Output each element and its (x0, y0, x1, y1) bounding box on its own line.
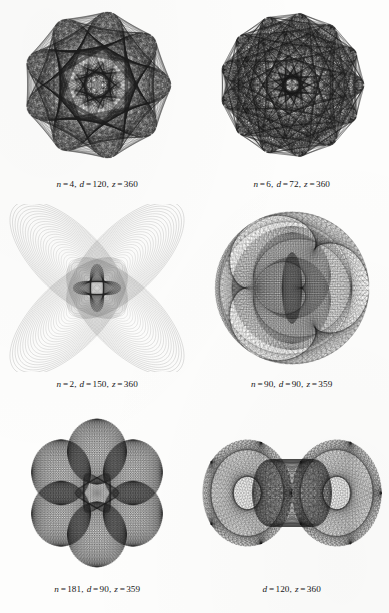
figure-caption-5: n=181,d=90,z=359 (54, 585, 140, 594)
caption-value: 90 (100, 584, 109, 594)
caption-var: n (253, 179, 258, 189)
figure-canvas (6, 409, 188, 577)
figure-caption-4: n=90,d=90,z=359 (251, 380, 332, 389)
figure-canvas (6, 204, 188, 372)
figure-cell-4: n=90,d=90,z=359 (195, 204, 389, 408)
caption-var: d (276, 179, 281, 189)
figure-caption-1: n=4,d=120,z=360 (57, 180, 138, 189)
caption-value: 181 (67, 584, 81, 594)
caption-value: 120 (275, 584, 289, 594)
spirograph-figure-4 (195, 204, 389, 372)
spirograph-figure-2 (195, 0, 389, 170)
caption-value: 360 (316, 179, 330, 189)
spirograph-figure-3 (0, 204, 195, 372)
spirograph-figure-5 (0, 409, 195, 577)
figure-stroke (222, 13, 364, 156)
spirograph-figure-6 (195, 409, 389, 577)
caption-value: 359 (318, 379, 332, 389)
figure-caption-6: d=120,z=360 (263, 585, 321, 594)
figure-canvas (6, 1, 188, 169)
figure-cell-2: n=6,d=72,z=360 (195, 0, 389, 204)
figure-stroke (202, 439, 381, 546)
figure-cell-6: d=120,z=360 (195, 409, 389, 613)
figure-caption-2: n=6,d=72,z=360 (253, 180, 330, 189)
caption-value: 360 (307, 584, 321, 594)
caption-var: d (263, 584, 268, 594)
figure-stroke (27, 12, 171, 158)
caption-var: z (306, 379, 310, 389)
caption-value: 90 (292, 379, 301, 389)
figure-canvas (201, 1, 383, 169)
caption-value: 360 (124, 379, 138, 389)
figure-cell-3: n=2,d=150,z=360 (0, 204, 195, 408)
caption-var: d (80, 179, 85, 189)
caption-value: 72 (289, 179, 298, 189)
figure-caption-3: n=2,d=150,z=360 (57, 380, 138, 389)
figure-cell-5: n=181,d=90,z=359 (0, 409, 195, 613)
figure-cell-1: n=4,d=120,z=360 (0, 0, 195, 204)
caption-value: 359 (126, 584, 140, 594)
figure-grid: n=4,d=120,z=360 n=6,d=72,z=360 n=2,d=150… (0, 0, 389, 613)
spirograph-figure-1 (0, 0, 195, 170)
figure-stroke (215, 212, 369, 364)
caption-value: 360 (124, 179, 138, 189)
figure-plate-page: n=4,d=120,z=360 n=6,d=72,z=360 n=2,d=150… (0, 0, 389, 613)
caption-value: 120 (92, 179, 106, 189)
caption-value: 90 (264, 379, 273, 389)
caption-value: 150 (92, 379, 106, 389)
figure-stroke (32, 419, 163, 567)
figure-canvas (201, 410, 383, 576)
caption-var: d (80, 379, 85, 389)
figure-canvas (201, 204, 383, 372)
